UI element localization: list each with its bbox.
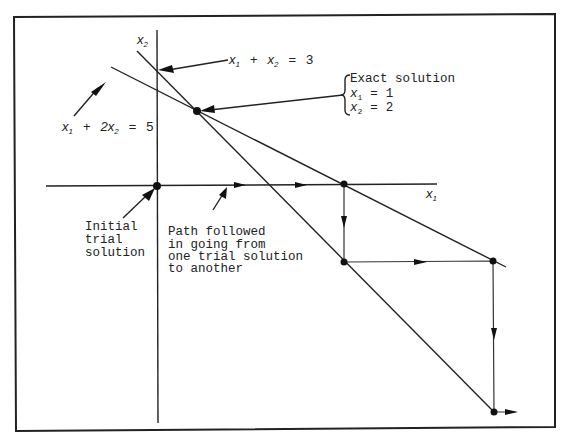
exact-solution-pointer-arrowhead xyxy=(200,105,215,113)
diagram-canvas: x2 x1 x1+x2=3 x1+2x2=5 Exact solution x1… xyxy=(0,0,566,441)
trial-point-3 xyxy=(490,258,497,265)
path-arrow-3 xyxy=(341,216,347,228)
initial-label-line-1: Initial xyxy=(85,220,138,234)
eq1-pointer xyxy=(168,60,228,70)
path-arrow-1 xyxy=(234,182,246,188)
initial-label-line-2: trial xyxy=(85,233,123,247)
exact-solution-heading: Exact solution xyxy=(350,72,455,86)
x2-axis xyxy=(157,30,158,423)
initial-pointer-arrowhead xyxy=(142,188,155,201)
path-label-line-1: Path followed xyxy=(168,225,266,239)
x2-axis-label: x2 xyxy=(136,32,149,49)
trial-point-1 xyxy=(341,181,348,188)
exact-solution-point xyxy=(193,107,201,115)
path-arrow-5 xyxy=(491,328,497,340)
trial-point-initial xyxy=(153,182,161,190)
eq2-label: x1+2x2=5 xyxy=(61,119,154,136)
x1-axis-label: x1 xyxy=(425,186,437,203)
path-arrow-4 xyxy=(414,259,427,265)
initial-pointer xyxy=(123,196,146,218)
iteration-path xyxy=(344,184,514,412)
path-label-line-4: to another xyxy=(168,262,243,276)
exact-solution-brace xyxy=(341,75,350,115)
exact-solution-pointer xyxy=(210,95,343,110)
exact-solution-x1: x1=1 xyxy=(349,87,393,102)
eq1-label: x1+x2=3 xyxy=(228,52,313,69)
trial-point-2 xyxy=(341,259,348,266)
trial-point-4 xyxy=(491,409,498,416)
path-arrow-2 xyxy=(295,182,307,188)
exact-solution-x2: x2=2 xyxy=(349,101,393,116)
eq1-pointer-arrowhead xyxy=(158,65,174,73)
path-arrow-6 xyxy=(505,409,518,415)
initial-label-line-3: solution xyxy=(85,246,145,260)
